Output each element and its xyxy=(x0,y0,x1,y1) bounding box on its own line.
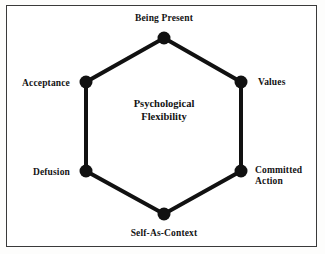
label-defusion: Defusion xyxy=(0,167,70,178)
label-committed-action: Committed Action xyxy=(255,165,302,187)
node-self-as-context[interactable] xyxy=(158,208,171,221)
node-values[interactable] xyxy=(235,76,248,89)
node-being-present[interactable] xyxy=(158,32,171,45)
center-label-psychological-flexibility: Psychological Flexibility xyxy=(134,97,195,123)
hexagon-outline xyxy=(86,38,241,214)
figure-canvas: Psychological Flexibility Being Present … xyxy=(0,0,325,254)
node-acceptance[interactable] xyxy=(80,76,93,89)
label-values: Values xyxy=(258,77,285,88)
label-being-present: Being Present xyxy=(135,13,193,24)
node-defusion[interactable] xyxy=(80,165,93,178)
label-self-as-context: Self-As-Context xyxy=(131,228,198,239)
label-acceptance: Acceptance xyxy=(0,78,70,89)
node-committed-action[interactable] xyxy=(235,165,248,178)
hexaflex-diagram xyxy=(0,0,325,254)
